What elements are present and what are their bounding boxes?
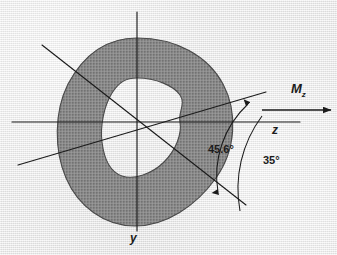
moment-label-symbol: M — [291, 81, 302, 96]
angle-arc-35 — [238, 116, 262, 211]
moment-label: Mz — [291, 82, 306, 99]
figure-container: Mz z y 45.6° 35° — [0, 0, 337, 255]
angle-arc-35-path — [238, 116, 262, 211]
cross-section-shape — [57, 38, 233, 226]
angle-label-moment: 35° — [263, 155, 280, 166]
moment-label-subscript: z — [302, 90, 306, 99]
y-axis-label: y — [130, 232, 137, 244]
z-axis-label: z — [272, 124, 278, 136]
outer-boundary-path — [57, 38, 233, 226]
angle-label-principal: 45.6° — [208, 144, 234, 155]
cross-section-diagram — [0, 0, 337, 255]
